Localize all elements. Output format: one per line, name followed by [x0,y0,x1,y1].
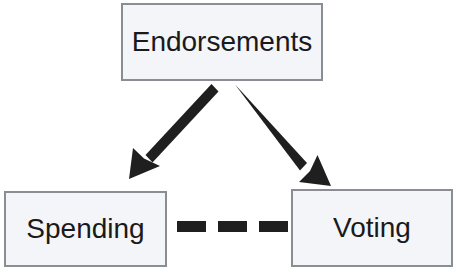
arrow-endorsements-to-voting [235,85,331,187]
diagram-canvas: Endorsements Spending Voting [0,0,461,273]
arrow-endorsements-to-spending [129,84,219,179]
dashed-connector-segment [177,221,206,232]
node-spending-label: Spending [26,215,144,243]
node-voting-label: Voting [333,214,411,242]
dashed-connector-segment [218,221,247,232]
dashed-connector-segment [259,221,288,232]
node-spending[interactable]: Spending [4,191,167,267]
node-endorsements-label: Endorsements [132,28,313,56]
node-endorsements[interactable]: Endorsements [121,3,323,81]
node-voting[interactable]: Voting [291,189,453,267]
